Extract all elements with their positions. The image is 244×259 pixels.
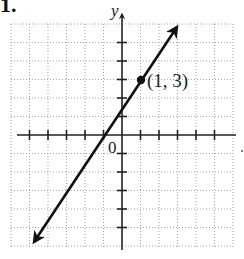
point-label: (1, 3) — [147, 70, 188, 92]
origin-label: 0 — [108, 138, 117, 157]
coordinate-plane: (1, 3) 0 y — [0, 0, 244, 259]
point-marker — [137, 76, 145, 84]
stray-mark — [241, 150, 243, 152]
y-axis-label: y — [109, 1, 119, 20]
